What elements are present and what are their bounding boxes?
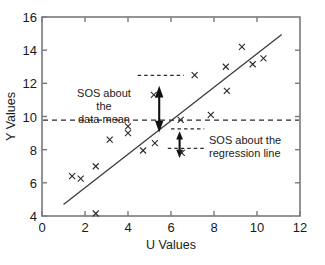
x-tick-label: 6 bbox=[167, 220, 174, 235]
x-tick-label: 4 bbox=[124, 220, 131, 235]
x-tick-label: 10 bbox=[250, 220, 264, 235]
scatter-plot-figure: 4 6 8 10 12 14 16 0 2 4 6 8 10 12 U Valu… bbox=[0, 0, 325, 265]
chart-canvas: 4 6 8 10 12 14 16 0 2 4 6 8 10 12 U Valu… bbox=[0, 0, 325, 265]
chart-background bbox=[0, 0, 325, 265]
annotation-line: data mean bbox=[78, 113, 130, 125]
y-tick-label: 10 bbox=[23, 110, 37, 125]
y-tick-label: 8 bbox=[30, 143, 37, 158]
x-tick-label: 2 bbox=[81, 220, 88, 235]
y-tick-label: 14 bbox=[23, 43, 37, 58]
y-tick-label: 12 bbox=[23, 76, 37, 91]
annotation-line: regression line bbox=[209, 147, 281, 159]
y-tick-label: 16 bbox=[23, 10, 37, 25]
x-tick-label: 8 bbox=[210, 220, 217, 235]
y-axis-title: Y Values bbox=[4, 92, 18, 141]
sos-about-regression-line-label: SOS about the regression line bbox=[209, 134, 281, 159]
annotation-line: SOS about the bbox=[209, 134, 281, 146]
y-tick-label: 6 bbox=[30, 176, 37, 191]
annotation-line: SOS about bbox=[77, 87, 131, 99]
y-tick-label: 4 bbox=[30, 209, 37, 224]
x-axis-title: U Values bbox=[146, 238, 196, 252]
x-tick-label: 0 bbox=[38, 220, 45, 235]
annotation-line: the bbox=[96, 100, 111, 112]
x-tick-label: 12 bbox=[293, 220, 307, 235]
